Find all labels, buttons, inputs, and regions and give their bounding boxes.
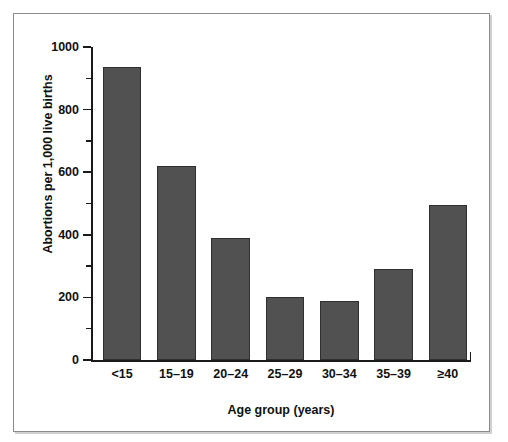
y-tick-major: 800 (83, 109, 91, 111)
bar-35–39 (374, 269, 413, 360)
bar-15–19 (157, 166, 196, 360)
x-tick-label: 25–29 (268, 367, 303, 381)
x-tick-label: 35–39 (376, 367, 411, 381)
y-tick-label: 800 (58, 103, 79, 117)
y-tick-label: 0 (72, 353, 79, 367)
y-tick-major: 0 (83, 359, 91, 361)
x-axis-line (91, 360, 471, 362)
bar-30–34 (320, 301, 359, 360)
x-tick-label: 15–19 (159, 367, 194, 381)
y-tick-major: 1000 (83, 46, 91, 48)
y-tick-label: 600 (58, 165, 79, 179)
x-tick-label: 30–34 (322, 367, 357, 381)
x-tick-label: 20–24 (213, 367, 248, 381)
y-tick-major: 400 (83, 234, 91, 236)
bar-20–24 (211, 238, 250, 360)
y-tick-major: 200 (83, 297, 91, 299)
bars-layer (91, 47, 471, 360)
y-tick-label: 1000 (51, 40, 79, 54)
y-tick-label: 400 (58, 228, 79, 242)
y-tick-major: 600 (83, 171, 91, 173)
bar-<15 (103, 67, 142, 360)
bar-chart: 02004006008001000 <1515–1920–2425–2930–3… (14, 14, 491, 433)
y-axis-title: Abortions per 1,000 live births (41, 34, 55, 294)
bar-25–29 (266, 297, 305, 360)
plot-region: 02004006008001000 <1515–1920–2425–2930–3… (91, 47, 471, 362)
y-tick-label: 200 (58, 290, 79, 304)
x-axis-title: Age group (years) (91, 403, 471, 417)
x-tick-label: <15 (112, 367, 133, 381)
bar-≥40 (429, 205, 468, 360)
x-tick-label: ≥40 (437, 367, 458, 381)
figure-frame: 02004006008001000 <1515–1920–2425–2930–3… (13, 13, 490, 432)
